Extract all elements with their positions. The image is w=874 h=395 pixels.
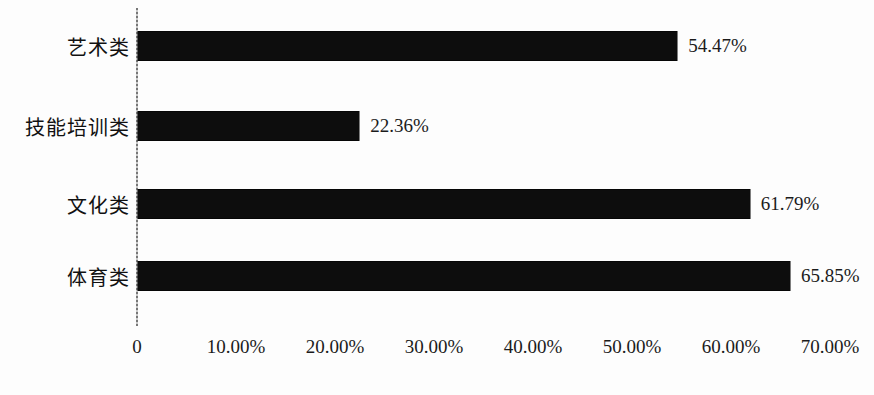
bar-体育类 <box>138 262 790 291</box>
bar-row: 文化类 61.79% <box>0 166 874 242</box>
category-label: 体育类 <box>67 262 130 291</box>
bar-row: 技能培训类 22.36% <box>0 88 874 164</box>
category-label: 技能培训类 <box>25 112 130 141</box>
bar-value-label: 61.79% <box>761 193 820 215</box>
bar-row: 体育类 65.85% <box>0 238 874 314</box>
x-tick-label: 0 <box>132 336 142 358</box>
bar-track <box>138 262 790 291</box>
x-tick-label: 40.00% <box>504 336 563 358</box>
x-tick-label: 30.00% <box>405 336 464 358</box>
x-tick-label: 50.00% <box>603 336 662 358</box>
bar-row: 艺术类 54.47% <box>0 8 874 84</box>
bar-track <box>138 32 677 61</box>
x-axis: 0 10.00% 20.00% 30.00% 40.00% 50.00% 60.… <box>0 336 874 366</box>
bar-文化类 <box>138 190 750 219</box>
x-tick-label: 70.00% <box>801 336 860 358</box>
bar-艺术类 <box>138 32 677 61</box>
bar-chart: 艺术类 54.47% 技能培训类 22.36% 文化类 61.79% 体育类 <box>0 0 874 395</box>
x-tick-label: 20.00% <box>306 336 365 358</box>
plot-area: 艺术类 54.47% 技能培训类 22.36% 文化类 61.79% 体育类 <box>0 0 874 340</box>
x-tick-label: 60.00% <box>702 336 761 358</box>
x-tick-label: 10.00% <box>207 336 266 358</box>
bar-value-label: 54.47% <box>688 35 747 57</box>
bar-track <box>138 190 750 219</box>
bar-value-label: 22.36% <box>370 115 429 137</box>
bar-技能培训类 <box>138 112 359 141</box>
category-label: 文化类 <box>67 190 130 219</box>
bar-value-label: 65.85% <box>801 265 860 287</box>
category-label: 艺术类 <box>67 32 130 61</box>
bar-track <box>138 112 359 141</box>
